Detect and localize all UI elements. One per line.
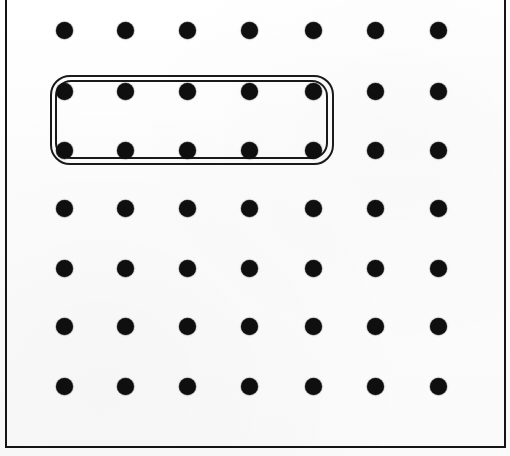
grid-dot[interactable] [56,260,73,277]
grid-dot[interactable] [117,200,134,217]
page-border-left [5,0,7,448]
grid-dot[interactable] [367,318,384,335]
grid-dot[interactable] [117,22,134,39]
grid-dot[interactable] [179,22,196,39]
grid-dot[interactable] [241,260,258,277]
grid-dot[interactable] [56,318,73,335]
grid-dot[interactable] [305,260,322,277]
grid-dot[interactable] [179,318,196,335]
grid-dot[interactable] [179,83,196,100]
grid-dot[interactable] [305,22,322,39]
grid-dot[interactable] [430,83,447,100]
grid-dot[interactable] [56,22,73,39]
grid-dot[interactable] [56,83,73,100]
grid-dot[interactable] [241,318,258,335]
grid-dot[interactable] [179,200,196,217]
grid-dot[interactable] [367,378,384,395]
grid-dot[interactable] [305,83,322,100]
grid-dot[interactable] [241,378,258,395]
grid-dot[interactable] [367,200,384,217]
grid-dot[interactable] [305,318,322,335]
grid-dot[interactable] [367,83,384,100]
grid-dot[interactable] [117,318,134,335]
grid-dot[interactable] [117,83,134,100]
grid-dot[interactable] [56,378,73,395]
grid-dot[interactable] [241,200,258,217]
page-border-bottom [5,446,506,448]
grid-dot[interactable] [179,260,196,277]
grid-dot[interactable] [305,200,322,217]
grid-dot[interactable] [305,378,322,395]
grid-dot[interactable] [241,142,258,159]
page-border-right [504,0,506,448]
grid-dot[interactable] [305,142,322,159]
grid-dot[interactable] [179,378,196,395]
grid-dot[interactable] [117,378,134,395]
grid-dot[interactable] [367,142,384,159]
grid-dot[interactable] [117,260,134,277]
grid-dot[interactable] [430,142,447,159]
grid-dot[interactable] [430,318,447,335]
grid-dot[interactable] [367,260,384,277]
grid-dot[interactable] [430,22,447,39]
grid-dot[interactable] [117,142,134,159]
grid-dot[interactable] [179,142,196,159]
grid-dot[interactable] [430,260,447,277]
grid-dot[interactable] [56,200,73,217]
grid-dot[interactable] [430,200,447,217]
grid-dot[interactable] [367,22,384,39]
grid-dot[interactable] [56,142,73,159]
grid-dot[interactable] [241,22,258,39]
grid-dot[interactable] [241,83,258,100]
figure-canvas [0,0,510,456]
grid-dot[interactable] [430,378,447,395]
